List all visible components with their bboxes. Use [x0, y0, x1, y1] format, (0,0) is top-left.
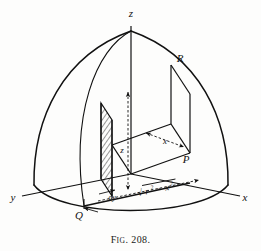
vertical-face-RP [171, 65, 190, 153]
figure-caption: FIG. 208. [111, 234, 151, 245]
meridian-yz-arc [34, 31, 131, 185]
figure-caption-wrapper: FIG. 208. [0, 229, 261, 247]
vertical-face-top-edge [171, 65, 190, 94]
plane-edge-right [171, 124, 190, 153]
plane-edge-origin-to-P [131, 153, 190, 174]
x-axis-label: x [242, 191, 248, 203]
figure-container: z x y R P Q z x dy dy √ r 2 − x 2 FIG. 2… [0, 0, 261, 251]
point-label-Q: Q [75, 209, 83, 221]
radical-x: x [163, 182, 170, 193]
geometry-diagram: z x y R P Q z x dy dy √ r 2 − x 2 [0, 0, 261, 251]
radical-x-exponent: 2 [170, 180, 174, 186]
coordinate-axes [22, 26, 240, 196]
radical-r: r [144, 186, 150, 197]
volume-element-strip [101, 103, 112, 196]
radical-expression-group: √ r 2 − x 2 [136, 179, 177, 198]
point-label-P: P [182, 153, 190, 165]
height-label-z: z [119, 145, 124, 155]
hatched-strip-face [101, 103, 112, 196]
radical-sqrt-sign: √ [136, 187, 143, 198]
equator-front-arc [34, 185, 228, 211]
point-label-R: R [176, 52, 184, 64]
z-axis-label: z [128, 7, 134, 19]
depth-label-x: x [162, 136, 167, 146]
radical-minus-sign: − [154, 184, 162, 195]
caption-number: . 208. [125, 234, 150, 245]
y-axis-label: y [10, 191, 16, 203]
